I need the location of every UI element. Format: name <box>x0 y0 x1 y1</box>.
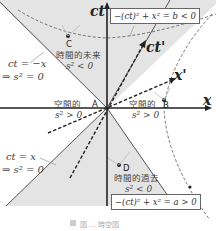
space-right-label: 空間的 <box>129 100 156 109</box>
light-line-plus-eq: ct = x <box>6 152 36 162</box>
hyperbola-a-equation: −(ct)² + x² = a > 0 <box>111 194 201 210</box>
hyperbola-b-equation: −(ct)² + x² = b < 0 <box>110 8 200 24</box>
ct-prime-axis-label: ct' <box>146 40 165 54</box>
point-d-label: D <box>123 164 130 173</box>
future-region-label: 時間的未来 <box>56 51 101 60</box>
point-b-label: B <box>163 101 169 110</box>
past-region-interval: s² < 0 <box>125 185 152 194</box>
past-region-label: 時間的過去 <box>114 174 159 183</box>
light-line-plus-interval: ⇒ s² = 0 <box>2 165 44 175</box>
figure-caption: 図 ... 時空図 <box>80 219 119 229</box>
future-region-interval: s² < 0 <box>66 62 93 71</box>
x-axis-label: x <box>203 93 211 107</box>
light-line-minus-eq: ct = −x <box>8 59 46 69</box>
point-a-label: A <box>92 100 98 109</box>
ct-axis-label: ct <box>90 4 105 18</box>
x-prime-axis-label: x' <box>174 68 187 82</box>
space-right-interval: s² > 0 <box>132 111 159 120</box>
space-left-interval: s² > 0 <box>55 111 82 120</box>
light-line-minus-interval: ⇒ s² = 0 <box>2 72 44 82</box>
point-c-label: C <box>66 40 72 49</box>
space-left-label: 空間的 <box>54 100 81 109</box>
